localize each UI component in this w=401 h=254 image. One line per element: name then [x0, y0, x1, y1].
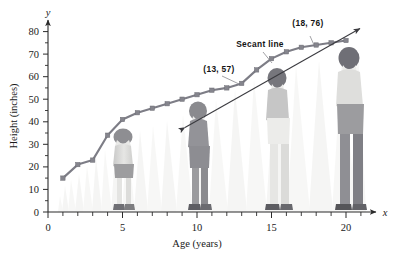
y-axis-symbol: y	[45, 7, 51, 18]
leader-line-13-57	[222, 76, 239, 84]
leader-line-18-76	[310, 36, 314, 45]
chart-canvas: 0 10 20 30 40 50 60 70 80 0 5 10 15 20 y…	[0, 0, 401, 254]
height-vs-age-figure: 0 10 20 30 40 50 60 70 80 0 5 10 15 20 y…	[0, 0, 401, 254]
x-axis-title: Age (years)	[172, 238, 222, 250]
y-axis-title: Height (inches)	[8, 83, 20, 149]
y-tick-label: 20	[29, 161, 40, 172]
x-tick-label: 15	[266, 222, 277, 233]
silhouette-crowd-background	[58, 55, 366, 212]
y-tick-label: 50	[29, 94, 40, 105]
y-axis-tick-labels: 0 10 20 30 40 50 60 70 80	[29, 26, 40, 217]
y-tick-label: 70	[29, 49, 40, 60]
x-axis-symbol: x	[382, 207, 388, 218]
x-axis-tick-labels: 0 5 10 15 20	[45, 222, 351, 233]
annotation-point-18-76: (18, 76)	[292, 18, 323, 28]
annotation-point-13-57: (13, 57)	[203, 64, 234, 74]
y-tick-label: 60	[29, 71, 40, 82]
y-tick-label: 40	[29, 116, 40, 127]
x-axis-minor-ticks	[63, 212, 361, 216]
x-tick-label: 20	[341, 222, 352, 233]
y-tick-label: 0	[34, 207, 39, 218]
x-tick-label: 5	[120, 222, 125, 233]
y-tick-label: 80	[29, 26, 40, 37]
y-tick-label: 30	[29, 139, 40, 150]
y-axis-major-ticks	[43, 32, 48, 212]
x-tick-label: 10	[192, 222, 203, 233]
annotation-secant-line: Secant line	[236, 39, 284, 49]
y-tick-label: 10	[29, 184, 40, 195]
x-tick-label: 0	[45, 222, 50, 233]
